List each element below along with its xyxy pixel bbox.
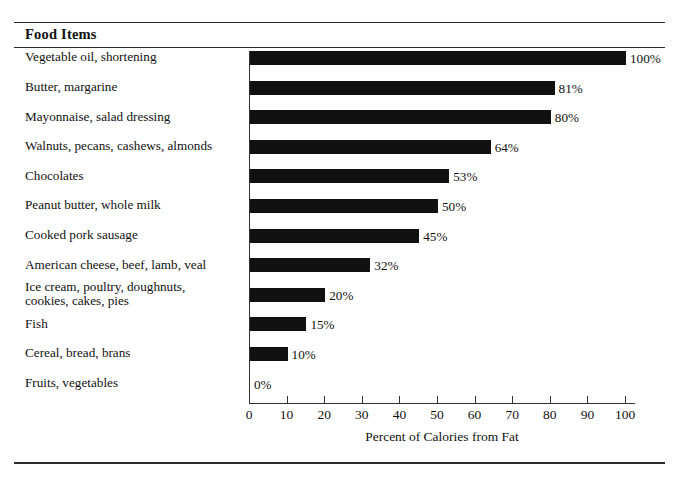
x-tick-label: 30 xyxy=(355,407,369,423)
footer-rule xyxy=(14,462,665,464)
bar-value-label: 53% xyxy=(453,169,477,185)
x-tick xyxy=(399,396,400,403)
x-tick-label: 70 xyxy=(505,407,519,423)
bar-value-label: 45% xyxy=(423,229,447,245)
bar xyxy=(250,317,306,331)
bar xyxy=(250,199,438,213)
x-tick-label: 10 xyxy=(280,407,294,423)
bar-value-label: 80% xyxy=(555,110,579,126)
category-label: Peanut butter, whole milk xyxy=(25,198,240,211)
category-label: American cheese, beef, lamb, veal xyxy=(25,258,240,271)
bar xyxy=(250,81,555,95)
category-label: Butter, margarine xyxy=(25,80,240,93)
bar xyxy=(250,169,449,183)
category-label: Fish xyxy=(25,317,240,330)
header-rule-top xyxy=(14,22,665,23)
bar xyxy=(250,140,491,154)
bar-value-label: 10% xyxy=(292,347,316,363)
x-tick xyxy=(437,396,438,403)
bar xyxy=(250,347,288,361)
x-tick xyxy=(324,396,325,403)
bar-value-label: 81% xyxy=(559,81,583,97)
bar-value-label: 50% xyxy=(442,199,466,215)
x-tick-label: 60 xyxy=(468,407,482,423)
x-tick xyxy=(587,396,588,403)
x-tick xyxy=(362,396,363,403)
bar-value-label: 15% xyxy=(310,317,334,333)
x-tick-label: 90 xyxy=(581,407,595,423)
bar-value-label: 0% xyxy=(254,377,272,393)
x-tick-label: 20 xyxy=(317,407,331,423)
x-tick-label: 0 xyxy=(246,407,253,423)
x-tick xyxy=(287,396,288,403)
x-axis-line xyxy=(249,403,635,404)
category-label: Cereal, bread, brans xyxy=(25,346,240,359)
category-label: Mayonnaise, salad dressing xyxy=(25,110,240,123)
bar xyxy=(250,258,370,272)
bar-value-label: 64% xyxy=(495,140,519,156)
page-title: Food Items xyxy=(25,26,97,43)
x-tick-label: 100 xyxy=(615,407,635,423)
bar-chart: 0102030405060708090100 Vegetable oil, sh… xyxy=(0,47,679,462)
x-tick xyxy=(550,396,551,403)
bar xyxy=(250,110,551,124)
bar xyxy=(250,288,325,302)
category-label: Cooked pork sausage xyxy=(25,228,240,241)
bar xyxy=(250,51,626,65)
x-tick-label: 40 xyxy=(393,407,407,423)
bar-value-label: 32% xyxy=(374,258,398,274)
category-label: Fruits, vegetables xyxy=(25,376,240,389)
bar-value-label: 100% xyxy=(630,51,661,67)
bar xyxy=(250,229,419,243)
x-tick xyxy=(512,396,513,403)
x-tick-label: 50 xyxy=(430,407,444,423)
category-label: Walnuts, pecans, cashews, almonds xyxy=(25,139,240,152)
x-tick xyxy=(249,396,250,403)
x-axis-title: Percent of Calories from Fat xyxy=(249,429,635,445)
x-tick-label: 80 xyxy=(543,407,557,423)
category-label: Chocolates xyxy=(25,169,240,182)
x-tick xyxy=(475,396,476,403)
bar-value-label: 20% xyxy=(329,288,353,304)
category-label: Ice cream, poultry, doughnuts, cookies, … xyxy=(25,280,240,307)
category-label: Vegetable oil, shortening xyxy=(25,50,240,63)
x-tick xyxy=(625,396,626,403)
